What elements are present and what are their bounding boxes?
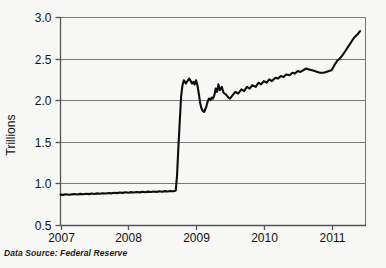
- y-tick-label: 2.5: [35, 53, 52, 67]
- source-note: Data Source: Federal Reserve: [4, 248, 127, 258]
- line-chart: 0.51.01.52.02.53.0 20072008200920102011 …: [0, 0, 386, 248]
- y-tick-label: 1.0: [35, 177, 52, 191]
- x-tick-label: 2010: [251, 231, 278, 245]
- chart-figure: 0.51.01.52.02.53.0 20072008200920102011 …: [0, 0, 386, 268]
- x-tick-label: 2011: [320, 231, 346, 245]
- data-series-line: [61, 31, 361, 195]
- y-tick-label: 1.5: [35, 136, 52, 150]
- x-axis-ticks-group: 20072008200920102011: [48, 225, 346, 245]
- x-tick-label: 2009: [183, 231, 210, 245]
- gridlines-group: [61, 18, 366, 184]
- y-tick-label: 2.0: [35, 94, 52, 108]
- y-axis-ticks-group: 0.51.01.52.02.53.0: [35, 11, 61, 233]
- y-tick-label: 3.0: [35, 11, 52, 25]
- x-tick-label: 2008: [115, 231, 142, 245]
- y-axis-title: Trillions: [4, 115, 18, 156]
- x-tick-label: 2007: [48, 231, 75, 245]
